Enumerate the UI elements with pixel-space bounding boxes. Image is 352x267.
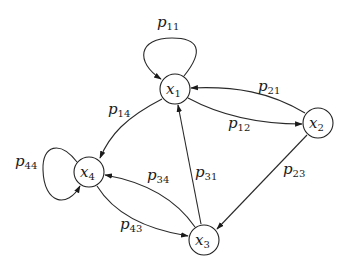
node-x4: x4	[74, 157, 104, 187]
edge-p43	[97, 186, 188, 236]
node-x1: x1	[160, 74, 190, 104]
edge-labels: p11 p12 p21 p14 p23 p31 p34 p43 p44	[15, 13, 305, 234]
edge-p11	[144, 38, 197, 79]
state-diagram: x1 x2 x3 x4 p11 p12 p21 p14 p23 p31 p34 …	[0, 0, 352, 267]
edge-p23	[217, 135, 307, 229]
label-p11: p11	[157, 13, 179, 32]
edge-p21	[191, 88, 305, 113]
label-p44: p44	[15, 152, 37, 171]
node-x3: x3	[189, 225, 219, 255]
label-p14: p14	[108, 100, 130, 119]
label-p31: p31	[195, 163, 217, 182]
label-p21: p21	[258, 77, 280, 96]
label-p23: p23	[283, 160, 305, 179]
edge-p12	[188, 98, 302, 124]
node-x2: x2	[303, 108, 333, 138]
edges	[43, 38, 307, 236]
label-p34: p34	[147, 166, 169, 185]
